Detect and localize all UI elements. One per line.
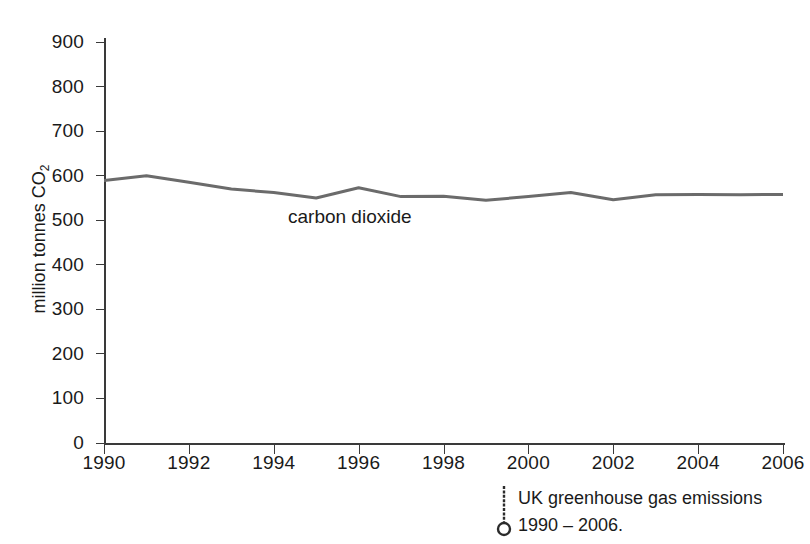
y-tick-label-text: 400 [22,255,84,274]
x-tick-label-2004: 2004 [663,452,733,474]
x-tick-label-1990: 1990 [69,452,139,474]
x-tick-label-2002: 2002 [578,452,648,474]
x-tick-label-2006: 2006 [748,452,810,474]
caption-line-2: 1990 – 2006. [518,512,762,539]
x-tick-label-1992: 1992 [154,452,224,474]
caption-line-1: UK greenhouse gas emissions [518,485,762,512]
y-tick-label-text: 800 [22,77,84,96]
y-axis-title: million tonnes CO2 [29,119,51,359]
y-tick-label-text: 900 [22,32,84,51]
carbon-dioxide-line-series [104,42,783,443]
x-tick-label-1998: 1998 [409,452,479,474]
x-tick-label-1994: 1994 [239,452,309,474]
pin-marker-icon [492,484,518,540]
y-tick-label-text: 100 [22,388,84,407]
y-tick-label-text: 300 [22,299,84,318]
y-tick-label-text: 700 [22,121,84,140]
y-tick-label-text: 600 [22,166,84,185]
series-polyline [104,176,783,201]
figure-caption: UK greenhouse gas emissions 1990 – 2006. [492,484,762,540]
y-tick-label-text: 500 [22,210,84,229]
figure-uk-greenhouse-gas-emissions: million tonnes CO2 010020030040050060070… [0,0,810,544]
y-tick-label-text: 0 [22,433,84,452]
plot-area [104,42,783,443]
x-tick-label-2000: 2000 [493,452,563,474]
x-axis-line [104,443,785,445]
y-tick-label-text: 200 [22,344,84,363]
caption-text-block: UK greenhouse gas emissions 1990 – 2006. [518,484,762,539]
series-label-carbon-dioxide: carbon dioxide [288,206,412,228]
y-axis-title-text: million tonnes CO [29,171,49,313]
x-tick-label-1996: 1996 [324,452,394,474]
